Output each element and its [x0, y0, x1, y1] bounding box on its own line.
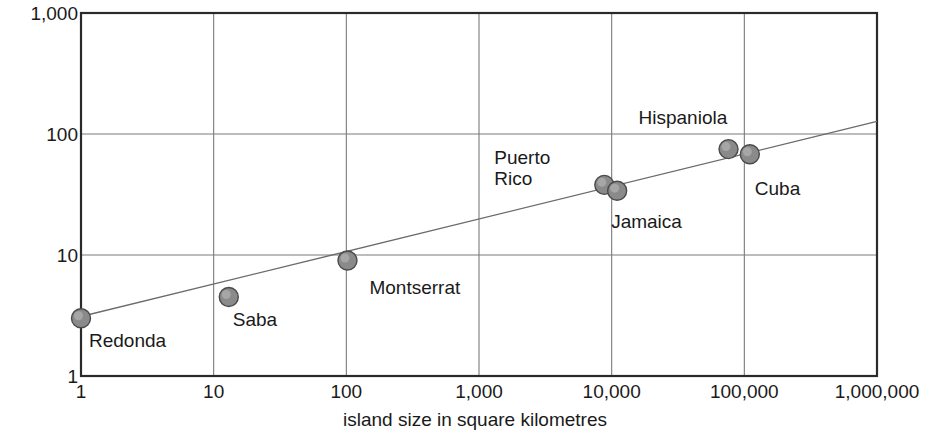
- plot-canvas: [0, 0, 930, 437]
- point-label: Hispaniola: [639, 107, 728, 128]
- data-point-highlight: [743, 147, 752, 156]
- y-tick-label: 100: [0, 125, 78, 144]
- data-point-highlight: [597, 178, 606, 187]
- scatter-chart-figure: 1101001,000 1101001,00010,000100,0001,00…: [0, 0, 930, 437]
- point-label: Jamaica: [611, 211, 682, 232]
- point-label: Saba: [233, 309, 277, 330]
- point-label: Puerto Rico: [494, 147, 550, 189]
- y-axis-tick-labels: 1101001,000: [0, 0, 78, 437]
- data-point-highlight: [722, 142, 731, 151]
- point-label: Redonda: [89, 330, 166, 351]
- point-label: Cuba: [755, 178, 800, 199]
- x-tick-label: 1,000,000: [797, 382, 930, 401]
- x-axis-title: island size in square kilometres: [275, 409, 675, 431]
- data-point-highlight: [610, 184, 619, 193]
- y-tick-label: 10: [0, 246, 78, 265]
- data-point-highlight: [222, 290, 231, 299]
- data-points: [72, 140, 760, 328]
- y-tick-label: 1,000: [0, 4, 78, 23]
- point-label: Montserrat: [369, 277, 460, 298]
- data-point-highlight: [340, 254, 349, 263]
